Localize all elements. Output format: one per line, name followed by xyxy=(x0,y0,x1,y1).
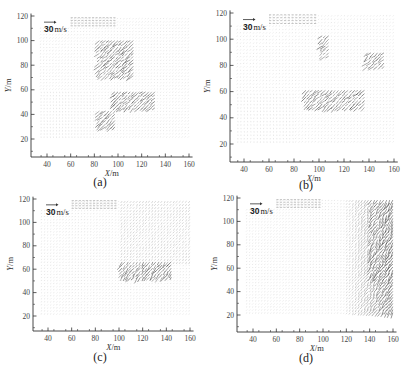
y-tick-label: 20 xyxy=(23,312,31,321)
x-tick-label: 120 xyxy=(338,165,350,174)
x-tick-label: 60 xyxy=(273,335,281,344)
x-tick-label: 120 xyxy=(341,335,353,344)
y-tick-label: 100 xyxy=(216,35,228,44)
x-tick-label: 160 xyxy=(184,334,196,343)
y-tick-label: 120 xyxy=(223,194,235,203)
x-tick-label: 120 xyxy=(137,334,149,343)
x-tick-label: 60 xyxy=(68,334,76,343)
x-tick-label: 140 xyxy=(363,165,375,174)
x-tick-label: 80 xyxy=(296,335,304,344)
x-tick-label: 40 xyxy=(43,160,51,169)
y-tick-label: 80 xyxy=(220,61,228,70)
x-tick-label: 160 xyxy=(387,335,399,344)
reference-arrow-label: 30m/s xyxy=(243,22,266,32)
y-tick-label: 40 xyxy=(23,288,31,297)
axes-a: 40608010012014016020406080100120X/mY/m xyxy=(3,12,195,178)
panel-c: 40608010012014016020406080100120X/mY/m30… xyxy=(5,195,196,352)
y-tick-label: 120 xyxy=(216,9,228,18)
y-axis-label: Y/m xyxy=(5,257,15,271)
x-tick-label: 60 xyxy=(67,160,75,169)
y-tick-label: 40 xyxy=(21,110,29,119)
x-tick-label: 60 xyxy=(265,165,273,174)
vector-field-b xyxy=(237,15,394,143)
vector-field-a xyxy=(40,18,189,138)
reference-arrow-legend: 30m/s xyxy=(46,203,69,217)
x-tick-label: 140 xyxy=(161,334,173,343)
y-tick-label: 40 xyxy=(220,113,228,122)
x-tick-label: 40 xyxy=(249,335,257,344)
y-tick-label: 100 xyxy=(223,217,235,226)
x-tick-label: 80 xyxy=(92,334,100,343)
x-tick-label: 140 xyxy=(364,335,376,344)
y-axis-label: Y/m xyxy=(3,78,13,92)
reference-arrow-legend: 30m/s xyxy=(44,21,67,35)
axes-b: 40608010012014016020406080100120X/mY/m xyxy=(202,9,400,183)
caption-a: (a) xyxy=(80,175,120,190)
y-tick-label: 80 xyxy=(227,240,235,249)
x-tick-label: 40 xyxy=(44,334,52,343)
y-tick-label: 80 xyxy=(23,241,31,250)
y-tick-label: 20 xyxy=(220,140,228,149)
x-tick-label: 40 xyxy=(240,165,248,174)
y-axis-label: Y/m xyxy=(202,79,212,93)
y-tick-label: 20 xyxy=(227,311,235,320)
reference-arrow-legend: 30m/s xyxy=(250,202,273,216)
x-tick-label: 80 xyxy=(91,160,99,169)
panel-b: 40608010012014016020406080100120X/mY/m30… xyxy=(202,9,400,183)
y-tick-label: 40 xyxy=(227,287,235,296)
y-tick-label: 60 xyxy=(220,87,228,96)
y-tick-label: 20 xyxy=(21,135,29,144)
caption-c: (c) xyxy=(80,350,120,365)
y-axis-label: Y/m xyxy=(209,257,219,271)
vector-field-d xyxy=(246,200,393,319)
reference-arrow-label: 30m/s xyxy=(46,207,69,217)
y-tick-label: 60 xyxy=(21,85,29,94)
y-tick-label: 60 xyxy=(227,264,235,273)
y-tick-label: 100 xyxy=(17,36,29,45)
y-tick-label: 80 xyxy=(21,61,29,70)
panel-d: 40608010012014016020406080100120X/mY/m30… xyxy=(209,194,399,353)
x-tick-label: 160 xyxy=(183,160,195,169)
x-tick-label: 160 xyxy=(388,165,400,174)
figure-canvas: 40608010012014016020406080100120X/mY/m30… xyxy=(0,0,412,373)
caption-d: (d) xyxy=(286,351,326,366)
y-tick-label: 100 xyxy=(19,218,31,227)
x-tick-label: 120 xyxy=(136,160,148,169)
y-tick-label: 60 xyxy=(23,265,31,274)
caption-b: (b) xyxy=(286,178,326,193)
vector-field-c xyxy=(41,201,190,315)
y-tick-label: 120 xyxy=(17,12,29,21)
reference-arrow-legend: 30m/s xyxy=(243,18,266,32)
reference-arrow-label: 30m/s xyxy=(250,206,273,216)
x-tick-label: 80 xyxy=(290,165,298,174)
x-tick-label: 140 xyxy=(160,160,172,169)
y-tick-label: 120 xyxy=(19,195,31,204)
panel-a: 40608010012014016020406080100120X/mY/m30… xyxy=(3,12,195,178)
reference-arrow-label: 30m/s xyxy=(44,24,67,34)
